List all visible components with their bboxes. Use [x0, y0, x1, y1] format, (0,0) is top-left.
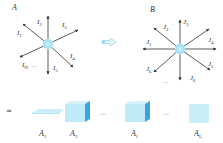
label-j4: J4 — [208, 36, 214, 45]
label-j1: J1 — [146, 38, 152, 47]
graph-b: B J1 J2 J3 J4 J5 J6 JL ⋯ — [143, 5, 216, 85]
block-a1 — [32, 109, 64, 114]
label-i1: I1 — [16, 29, 22, 38]
graph-a-title: A — [11, 3, 17, 12]
label-a1: A1 — [38, 129, 47, 139]
label-j3: J3 — [183, 18, 189, 27]
label-jl: JL — [146, 65, 152, 74]
block-ellipsis-1: ⋯ — [100, 110, 106, 117]
label-a2: A2 — [69, 129, 78, 139]
block-al — [125, 101, 150, 122]
label-j6: J6 — [190, 74, 196, 83]
transform-arrow-icon — [102, 38, 116, 46]
graph-b-title: B — [150, 5, 155, 14]
node-a — [43, 39, 53, 49]
label-i4: I4 — [69, 52, 75, 61]
label-j5: J5 — [208, 60, 214, 69]
ellipsis-b: ⋯ — [163, 79, 168, 85]
label-i3: I3 — [61, 21, 67, 30]
ellipsis-a: ⋯ — [32, 63, 37, 69]
block-ellipsis-2: ⋯ — [163, 110, 169, 117]
label-in: IN — [21, 61, 28, 70]
graph-a: A I1 I2 I3 I4 I5 IN ⋯ — [11, 3, 78, 74]
label-j2: J2 — [163, 23, 169, 32]
block-aL — [189, 104, 209, 123]
node-b — [175, 44, 185, 54]
approx-symbol: ≈ — [6, 107, 12, 115]
block-a2 — [65, 101, 90, 122]
tensor-network-diagram: A I1 I2 I3 I4 I5 IN ⋯ B — [0, 0, 223, 143]
label-al: Al — [130, 129, 138, 139]
label-i2: I2 — [36, 18, 42, 27]
label-aL: AL — [193, 129, 202, 139]
label-i5: I5 — [52, 64, 58, 73]
